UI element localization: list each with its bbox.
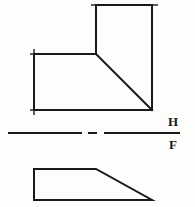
fold-line-label-horizontal: H <box>168 114 178 129</box>
technical-drawing-canvas: H F <box>0 0 195 207</box>
top-view-outline <box>34 5 152 110</box>
front-view-outline <box>34 169 152 200</box>
fold-line-label-frontal: F <box>169 137 177 152</box>
top-view-corner-ticks <box>30 5 158 115</box>
top-view-chamfer-diagonal <box>96 54 152 110</box>
orthographic-projection-svg: H F <box>0 0 195 207</box>
fold-line-group: H F <box>8 114 180 152</box>
top-view-group <box>30 5 158 115</box>
front-view-group <box>34 169 152 200</box>
